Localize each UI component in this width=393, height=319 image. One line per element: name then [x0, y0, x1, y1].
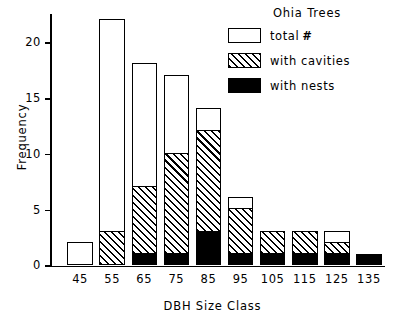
bar-segment-nests — [196, 232, 222, 265]
y-tick-label: 10 — [25, 147, 41, 161]
legend-entry-nests: with nests — [228, 77, 388, 94]
bar-segment-cavities — [292, 231, 318, 255]
legend-entry-total: total# — [228, 27, 388, 44]
bar-segment-nests — [164, 254, 190, 265]
legend-swatch-cavities-icon — [228, 53, 261, 68]
bar-segment-nests — [356, 254, 382, 265]
legend-title: Ohia Trees — [232, 6, 382, 20]
legend-label-cavities: with cavities — [270, 54, 350, 68]
bar-segment-total — [164, 75, 190, 154]
bar-segment-cavities — [99, 231, 125, 266]
chart-figure: Frequency DBH Size Class 05101520 455565… — [0, 0, 393, 319]
bar — [356, 254, 382, 265]
y-tick-label: 20 — [25, 35, 41, 49]
bar-segment-cavities — [228, 208, 254, 254]
y-tick-mark — [45, 98, 50, 100]
bar-segment-cavities — [132, 186, 158, 254]
y-tick-mark — [45, 265, 50, 267]
bar-segment-total — [99, 19, 125, 232]
y-tick-label: 5 — [33, 202, 41, 216]
y-tick-label: 0 — [33, 258, 41, 272]
bar-segment-nests — [324, 254, 350, 265]
bar-segment-cavities — [260, 231, 286, 255]
legend-swatch-total-icon — [228, 28, 261, 43]
bar — [67, 243, 93, 265]
legend-label-total: total# — [270, 29, 311, 43]
y-tick-mark — [45, 154, 50, 156]
bar-segment-total — [196, 108, 222, 132]
bar — [164, 76, 190, 266]
legend-label-nests: with nests — [270, 79, 335, 93]
legend-entry-cavities: with cavities — [228, 52, 388, 69]
bar — [132, 65, 158, 266]
bar-segment-cavities — [196, 130, 222, 232]
bar — [292, 232, 318, 265]
bar-segment-total — [132, 63, 158, 187]
x-axis-line — [50, 266, 385, 268]
bar — [260, 232, 286, 265]
y-tick-mark — [45, 42, 50, 44]
bar-segment-nests — [228, 254, 254, 265]
bar — [228, 198, 254, 265]
legend-swatch-nests-icon — [228, 78, 261, 93]
y-axis-line — [50, 14, 52, 267]
bar-segment-cavities — [164, 153, 190, 255]
y-tick-label: 15 — [25, 91, 41, 105]
y-tick-mark — [45, 210, 50, 212]
bar — [196, 109, 222, 265]
bar — [99, 20, 125, 265]
y-axis-title: Frequency — [15, 67, 29, 207]
bar-segment-nests — [260, 254, 286, 265]
bar-segment-cavities — [324, 242, 350, 254]
bar — [324, 232, 350, 265]
bar-segment-nests — [132, 254, 158, 265]
x-axis-title: DBH Size Class — [40, 299, 385, 313]
bar-segment-nests — [292, 254, 318, 265]
chart-legend: Ohia Trees total# with cavities with nes… — [228, 6, 388, 102]
x-tick-label: 135 — [346, 272, 392, 286]
number-sign-icon: # — [302, 29, 311, 43]
bar-segment-total — [67, 242, 93, 266]
